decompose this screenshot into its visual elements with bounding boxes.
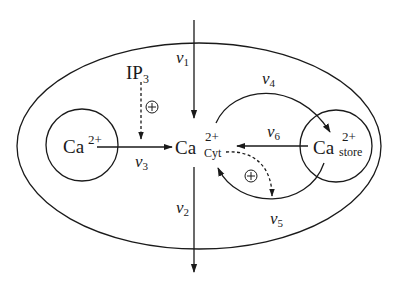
flux-v3-label: v3 [135, 152, 149, 172]
extracellular-ca-label: Ca2+ [63, 132, 102, 157]
cytosolic-ca-label: Ca [175, 137, 197, 158]
store-ca-charge: 2+ [342, 129, 356, 144]
flux-v6-label: v6 [267, 122, 281, 142]
cicr-activation-arrow [226, 152, 272, 196]
flux-v4-label: v4 [262, 69, 276, 89]
ip3-label: IP3 [126, 62, 149, 86]
flux-v2-label: v2 [176, 198, 189, 218]
activation-plus-icon [146, 101, 158, 113]
cytosolic-ca-charge: 2+ [205, 129, 219, 144]
cytosolic-ca-subscript: Cyt [204, 146, 222, 160]
calcium-flux-diagram: IP3 Ca2+ Ca 2+ Cyt Ca 2+ store v1 v2 v3 … [0, 0, 396, 283]
store-ca-subscript: store [339, 145, 362, 159]
figure-caption [6, 277, 390, 283]
activation-plus-icon [245, 170, 257, 182]
flux-v5-label: v5 [270, 209, 284, 229]
flux-v1-label: v1 [176, 48, 189, 68]
store-ca-label: Ca [313, 137, 335, 158]
